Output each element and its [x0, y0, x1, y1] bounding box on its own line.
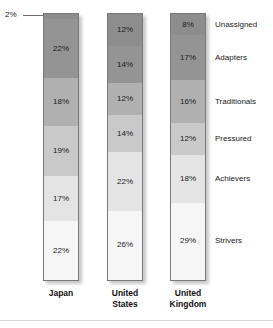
segment-value-label: 14% [117, 61, 133, 69]
bottom-divider [0, 320, 273, 321]
segment-value-label: 18% [180, 175, 196, 183]
category-label-traditionals: Traditionals [215, 98, 256, 106]
segment-uk-strivers[interactable]: 29% [171, 203, 205, 280]
segment-value-label: 16% [180, 98, 196, 106]
category-label-achievers: Achievers [215, 175, 250, 183]
bar-japan[interactable]: 2%22%18%19%17%22% [43, 13, 79, 281]
segment-value-label: 12% [117, 26, 133, 34]
segment-value-label: 12% [117, 95, 133, 103]
segment-japan-achievers[interactable]: 17% [44, 176, 78, 221]
axis-label-uk-line2: Kingdom [150, 299, 226, 310]
axis-label-united-kingdom: United Kingdom [150, 288, 226, 310]
segment-value-label: 29% [180, 237, 196, 245]
segment-uk-unassigned[interactable]: 8% [171, 14, 205, 35]
segment-us-strivers[interactable]: 26% [108, 211, 142, 280]
bar-united-states[interactable]: 12%14%12%14%22%26% [107, 13, 143, 281]
segment-us-adapters[interactable]: 14% [108, 46, 142, 83]
callout-label-2-percent: 2% [5, 11, 17, 19]
segment-value-label: 22% [53, 247, 69, 255]
segment-uk-adapters[interactable]: 17% [171, 35, 205, 80]
category-label-strivers: Strivers [215, 237, 242, 245]
segment-value-label: 17% [180, 54, 196, 62]
segment-value-label: 8% [182, 21, 194, 29]
segment-value-label: 22% [117, 178, 133, 186]
segment-value-label: 19% [53, 147, 69, 155]
segment-value-label: 17% [53, 195, 69, 203]
stacked-bar-chart: 2% 2%22%18%19%17%22% 12%14%12%14%22%26% … [0, 0, 273, 328]
axis-label-uk-line1: United [150, 288, 226, 299]
segment-value-label: 12% [180, 135, 196, 143]
segment-japan-adapters[interactable]: 22% [44, 19, 78, 78]
segment-uk-pressured[interactable]: 12% [171, 123, 205, 155]
category-label-adapters: Adapters [215, 54, 247, 62]
segment-japan-traditionals[interactable]: 18% [44, 78, 78, 126]
segment-value-label: 26% [117, 241, 133, 249]
segment-value-label: 18% [53, 98, 69, 106]
category-label-pressured: Pressured [215, 135, 251, 143]
segment-us-pressured[interactable]: 14% [108, 115, 142, 152]
segment-us-traditionals[interactable]: 12% [108, 83, 142, 115]
callout-leader-line [23, 15, 44, 16]
segment-us-unassigned[interactable]: 12% [108, 14, 142, 46]
segment-uk-achievers[interactable]: 18% [171, 155, 205, 203]
segment-japan-strivers[interactable]: 22% [44, 221, 78, 280]
segment-uk-traditionals[interactable]: 16% [171, 80, 205, 123]
segment-us-achievers[interactable]: 22% [108, 152, 142, 211]
bar-united-kingdom[interactable]: 8%17%16%12%18%29% [170, 13, 206, 281]
segment-japan-pressured[interactable]: 19% [44, 126, 78, 177]
segment-value-label: 14% [117, 130, 133, 138]
segment-value-label: 22% [53, 45, 69, 53]
category-label-unassigned: Unassigned [215, 21, 257, 29]
